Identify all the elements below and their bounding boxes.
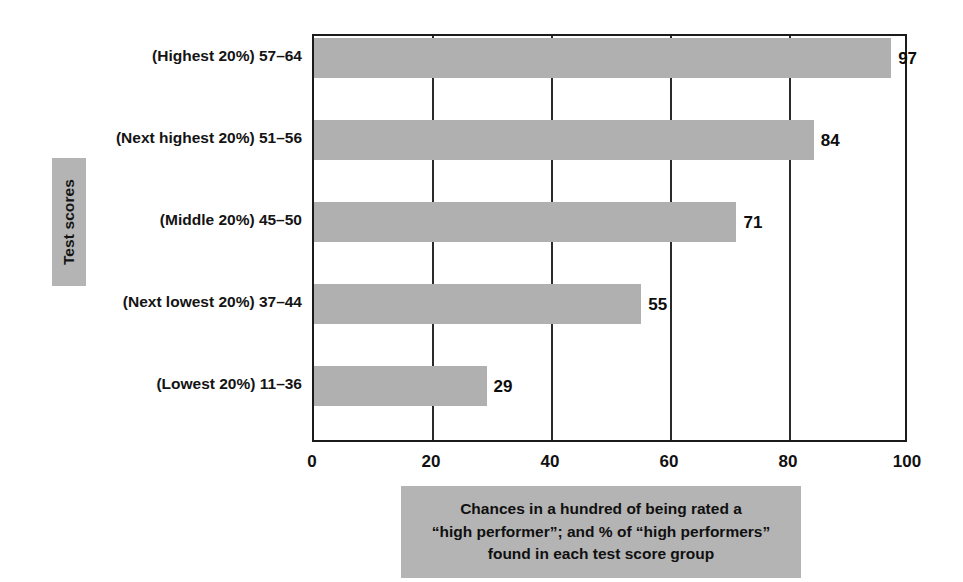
chart-figure: Test scores (Highest 20%) 57–64(Next hig… xyxy=(0,0,963,582)
bar xyxy=(314,120,814,160)
bar-value-label: 97 xyxy=(898,50,917,67)
x-axis-tick-label: 100 xyxy=(893,452,921,472)
bar xyxy=(314,284,641,324)
x-axis-tick-label: 40 xyxy=(541,452,560,472)
category-label: (Middle 20%) 45–50 xyxy=(0,212,302,228)
category-label: (Highest 20%) 57–64 xyxy=(0,48,302,64)
caption-line: Chances in a hundred of being rated a xyxy=(460,499,742,520)
x-axis-tick-label: 60 xyxy=(660,452,679,472)
x-axis-tick-label: 80 xyxy=(779,452,798,472)
x-axis-tick-label: 20 xyxy=(422,452,441,472)
caption-line: found in each test score group xyxy=(488,544,715,565)
bar xyxy=(314,366,487,406)
bar-value-label: 84 xyxy=(821,132,840,149)
x-axis-tick-label: 0 xyxy=(307,452,316,472)
plot-inner: 9784715529 xyxy=(314,36,905,440)
plot-area: 9784715529 xyxy=(312,34,907,442)
chart-caption: Chances in a hundred of being rated a“hi… xyxy=(401,486,801,578)
category-label: (Next highest 20%) 51–56 xyxy=(0,130,302,146)
bar-value-label: 71 xyxy=(743,214,762,231)
bar-value-label: 29 xyxy=(494,378,513,395)
caption-line: “high performer”; and % of “high perform… xyxy=(432,522,770,543)
category-label: (Lowest 20%) 11–36 xyxy=(0,376,302,392)
category-label: (Next lowest 20%) 37–44 xyxy=(0,294,302,310)
bar xyxy=(314,202,736,242)
bar xyxy=(314,38,891,78)
category-label-column: (Highest 20%) 57–64(Next highest 20%) 51… xyxy=(0,0,302,582)
gridline xyxy=(789,36,791,440)
bar-value-label: 55 xyxy=(648,296,667,313)
